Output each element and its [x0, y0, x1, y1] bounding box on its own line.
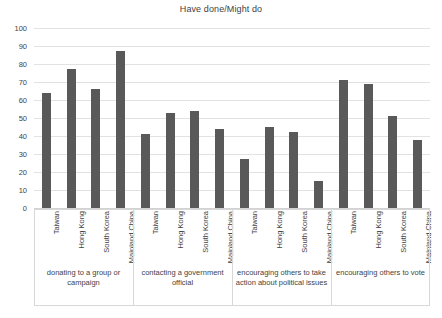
y-axis-tick-0: 0 [23, 204, 27, 213]
category-label: Hong Kong [175, 209, 186, 266]
y-axis: 1009080706050403020100 [0, 28, 30, 208]
group-separator [34, 209, 35, 266]
group-separator [429, 209, 430, 266]
category-label: Mainland China [225, 209, 236, 266]
category-label: Taiwan [150, 209, 161, 266]
group-label: contacting a government official [135, 268, 230, 287]
category-label: South Korea [200, 209, 211, 266]
group-separator [232, 209, 233, 266]
bar [67, 69, 76, 208]
y-axis-tick-20: 20 [19, 168, 27, 177]
group-separator [429, 266, 430, 306]
bar [289, 132, 298, 208]
y-axis-tick-40: 40 [19, 132, 27, 141]
category-label: South Korea [299, 209, 310, 266]
category-label: Mainland China [324, 209, 335, 266]
group-label: encouraging others to take action about … [234, 268, 329, 287]
plot-area [34, 28, 430, 208]
category-label: Hong Kong [76, 209, 87, 266]
group-separator [232, 266, 233, 306]
bar [388, 116, 397, 208]
group-separator [133, 266, 134, 306]
bar [166, 113, 175, 208]
group-separator [133, 209, 134, 266]
bar [314, 181, 323, 208]
gridline-80 [34, 64, 430, 65]
gridline-100 [34, 28, 430, 29]
category-label: Mainland China [126, 209, 137, 266]
bar [413, 140, 422, 208]
bar-chart: Have done/Might do 100908070605040302010… [0, 0, 442, 318]
bar [91, 89, 100, 208]
category-label: Taiwan [348, 209, 359, 266]
bar [339, 80, 348, 208]
category-axis-labels: TaiwanHong KongSouth KoreaMainland China… [34, 209, 430, 266]
y-axis-tick-50: 50 [19, 114, 27, 123]
category-label: Hong Kong [274, 209, 285, 266]
y-axis-tick-80: 80 [19, 60, 27, 69]
category-label: Taiwan [249, 209, 260, 266]
bar [265, 127, 274, 208]
bar [190, 111, 199, 208]
bar [42, 93, 51, 208]
group-separator [331, 209, 332, 266]
y-axis-tick-100: 100 [14, 24, 27, 33]
group-separator [34, 266, 35, 306]
y-axis-tick-90: 90 [19, 42, 27, 51]
y-axis-tick-60: 60 [19, 96, 27, 105]
bar [364, 84, 373, 208]
group-label: donating to a group or campaign [36, 268, 131, 287]
chart-title: Have done/Might do [0, 4, 442, 14]
bar [215, 129, 224, 208]
group-axis-labels: donating to a group or campaigncontactin… [34, 266, 430, 306]
category-label: South Korea [101, 209, 112, 266]
group-separator [331, 266, 332, 306]
bar [116, 51, 125, 208]
category-label: Hong Kong [373, 209, 384, 266]
group-label: encouraging others to vote [333, 268, 428, 278]
category-label: Taiwan [51, 209, 62, 266]
y-axis-tick-30: 30 [19, 150, 27, 159]
bar [141, 134, 150, 208]
y-axis-tick-70: 70 [19, 78, 27, 87]
y-axis-tick-10: 10 [19, 186, 27, 195]
gridline-90 [34, 46, 430, 47]
category-label: South Korea [398, 209, 409, 266]
bar [240, 159, 249, 208]
